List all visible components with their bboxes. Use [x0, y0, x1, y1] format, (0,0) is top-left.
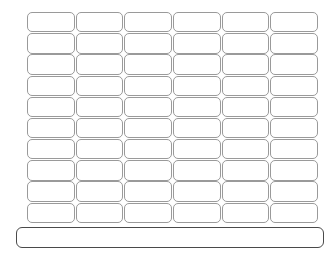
label-cell[interactable]: [270, 33, 318, 53]
label-sheet: [0, 0, 336, 254]
label-cell[interactable]: [124, 203, 172, 223]
label-cell[interactable]: [222, 54, 270, 74]
label-cell[interactable]: [76, 203, 124, 223]
label-cell[interactable]: [124, 139, 172, 159]
label-cell[interactable]: [173, 76, 221, 96]
label-cell[interactable]: [76, 139, 124, 159]
label-cell[interactable]: [173, 118, 221, 138]
label-cell[interactable]: [222, 139, 270, 159]
label-cell[interactable]: [270, 181, 318, 201]
label-cell[interactable]: [124, 160, 172, 180]
label-cell[interactable]: [27, 12, 75, 32]
label-grid: [27, 12, 318, 223]
label-cell[interactable]: [27, 160, 75, 180]
label-cell[interactable]: [173, 33, 221, 53]
label-cell[interactable]: [270, 118, 318, 138]
label-cell[interactable]: [27, 33, 75, 53]
label-cell[interactable]: [173, 181, 221, 201]
label-cell[interactable]: [27, 139, 75, 159]
label-cell[interactable]: [173, 12, 221, 32]
label-cell[interactable]: [270, 12, 318, 32]
label-cell[interactable]: [124, 12, 172, 32]
label-cell[interactable]: [27, 54, 75, 74]
label-cell[interactable]: [222, 181, 270, 201]
footer-bar[interactable]: [16, 227, 324, 248]
label-cell[interactable]: [76, 181, 124, 201]
label-cell[interactable]: [27, 203, 75, 223]
label-cell[interactable]: [173, 139, 221, 159]
label-cell[interactable]: [27, 76, 75, 96]
label-cell[interactable]: [222, 76, 270, 96]
label-cell[interactable]: [76, 76, 124, 96]
label-cell[interactable]: [124, 118, 172, 138]
label-cell[interactable]: [222, 12, 270, 32]
label-cell[interactable]: [270, 97, 318, 117]
label-cell[interactable]: [270, 160, 318, 180]
label-cell[interactable]: [173, 203, 221, 223]
label-cell[interactable]: [222, 97, 270, 117]
label-cell[interactable]: [124, 54, 172, 74]
label-cell[interactable]: [222, 203, 270, 223]
label-cell[interactable]: [27, 118, 75, 138]
label-cell[interactable]: [222, 160, 270, 180]
label-cell[interactable]: [270, 139, 318, 159]
label-cell[interactable]: [76, 12, 124, 32]
label-cell[interactable]: [222, 33, 270, 53]
label-cell[interactable]: [76, 97, 124, 117]
label-cell[interactable]: [124, 181, 172, 201]
label-cell[interactable]: [76, 33, 124, 53]
label-cell[interactable]: [27, 181, 75, 201]
label-cell[interactable]: [76, 54, 124, 74]
label-cell[interactable]: [173, 97, 221, 117]
label-cell[interactable]: [76, 160, 124, 180]
label-cell[interactable]: [270, 203, 318, 223]
label-cell[interactable]: [173, 160, 221, 180]
label-cell[interactable]: [76, 118, 124, 138]
label-cell[interactable]: [173, 54, 221, 74]
label-cell[interactable]: [270, 76, 318, 96]
label-cell[interactable]: [124, 33, 172, 53]
label-cell[interactable]: [222, 118, 270, 138]
label-cell[interactable]: [27, 97, 75, 117]
label-cell[interactable]: [270, 54, 318, 74]
label-cell[interactable]: [124, 76, 172, 96]
label-cell[interactable]: [124, 97, 172, 117]
